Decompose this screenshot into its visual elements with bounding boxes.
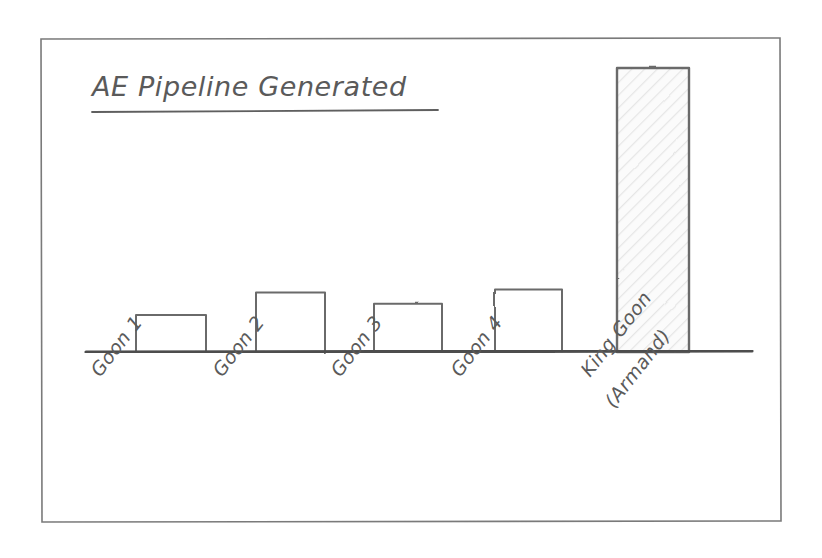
chart-canvas: AE Pipeline Generated Goon 1 Goon 2 Goon… (0, 0, 822, 558)
hand-drawn-bar-chart: AE Pipeline Generated Goon 1 Goon 2 Goon… (0, 0, 822, 558)
chart-title-group: AE Pipeline Generated (90, 71, 438, 112)
bar-goon-1 (136, 315, 206, 352)
bar-goon-2 (256, 292, 325, 352)
bar-goon-4 (495, 290, 562, 353)
chart-title: AE Pipeline Generated (90, 71, 407, 102)
